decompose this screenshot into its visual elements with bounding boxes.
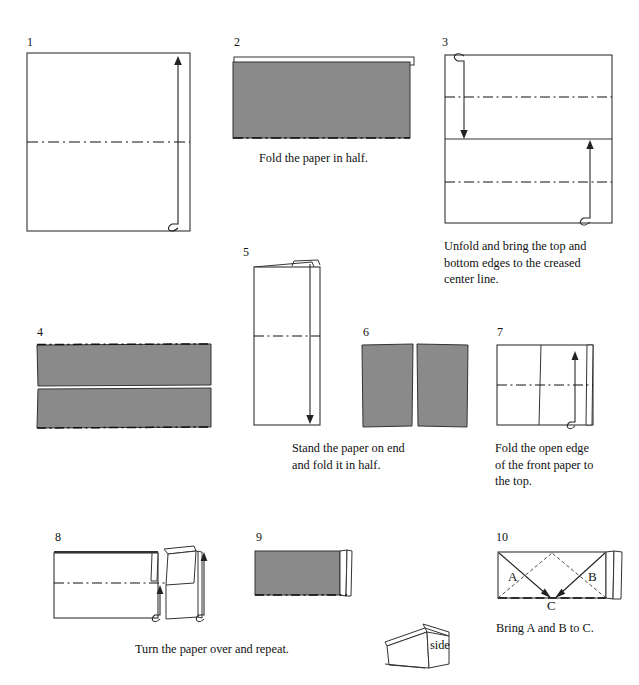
step-3-caption: Unfold and bring the top and bottom edge… xyxy=(444,238,629,288)
step-6-number: 6 xyxy=(363,326,369,338)
step-10-figure: A B C xyxy=(496,549,626,611)
step-9-number: 9 xyxy=(256,531,262,543)
step-10-number: 10 xyxy=(496,531,508,543)
step-5-figure xyxy=(232,256,352,436)
step-9-figure xyxy=(254,549,374,609)
step-8-figure xyxy=(52,545,212,625)
step-3-figure xyxy=(444,54,630,230)
step-4-figure xyxy=(35,342,215,432)
step-4-number: 4 xyxy=(37,326,43,338)
step-7-number: 7 xyxy=(497,326,503,338)
step-6-figure xyxy=(360,342,470,432)
step-7-figure xyxy=(495,342,615,432)
step-2-figure xyxy=(232,56,418,142)
step-1-number: 1 xyxy=(27,36,33,48)
step-10-label-b: B xyxy=(588,569,597,584)
step-8-number: 8 xyxy=(55,531,61,543)
side-view-label: side xyxy=(430,637,480,654)
step-10-label-c: C xyxy=(547,598,556,613)
step-2-caption: Fold the paper in half. xyxy=(259,150,449,167)
step-1-figure xyxy=(26,52,202,234)
step-10-label-a: A xyxy=(508,569,518,584)
step-5-caption: Stand the paper on end and fold it in ha… xyxy=(292,440,502,473)
step-8-caption: Turn the paper over and repeat. xyxy=(135,641,395,658)
origami-instruction-page: 1 2 Fold the paper in half. 3 xyxy=(0,0,639,685)
step-7-caption: Fold the open edge of the front paper to… xyxy=(495,440,639,490)
step-2-number: 2 xyxy=(234,36,240,48)
step-3-number: 3 xyxy=(442,36,448,48)
step-10-caption: Bring A and B to C. xyxy=(496,620,639,637)
